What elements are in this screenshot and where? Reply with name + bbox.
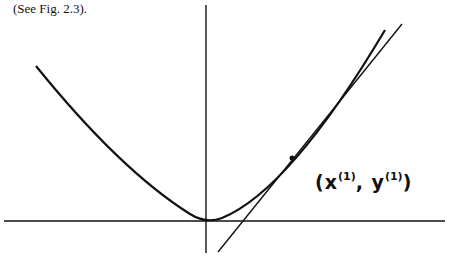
label-separator: , [356, 171, 372, 193]
label-x: x [325, 171, 338, 193]
label-x-superscript: (1) [338, 170, 356, 183]
label-y: y [372, 171, 385, 193]
label-close-paren: ) [403, 171, 413, 193]
label-open-paren: ( [315, 171, 325, 193]
tangent-point [290, 156, 295, 161]
tangent-line [218, 24, 402, 252]
parabola-diagram [0, 0, 449, 259]
label-y-superscript: (1) [385, 170, 403, 183]
point-label: (x(1), y(1)) [315, 170, 412, 193]
